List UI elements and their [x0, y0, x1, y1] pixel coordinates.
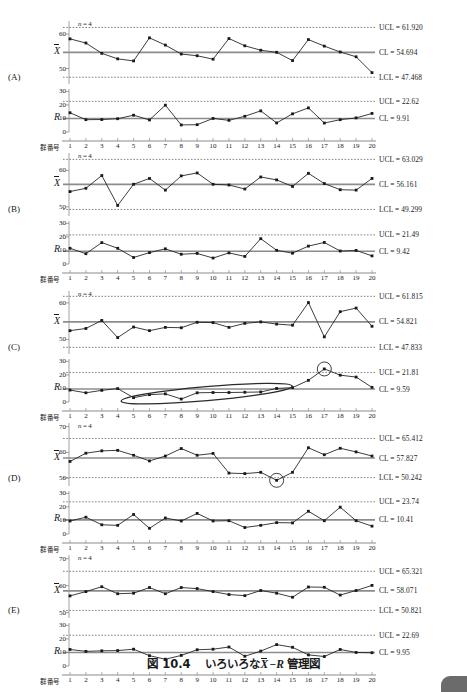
y-axis-tick-label: 0 [46, 260, 66, 268]
xbar-symbol: X [260, 658, 270, 670]
panel-letter: (A) [8, 72, 21, 82]
y-axis-tick-label: 10 [46, 246, 66, 254]
y-axis-tick-label: 30 [46, 219, 66, 227]
r-symbol: R [276, 658, 284, 670]
figure-caption: 図 10.4いろいろなX−R管理図 [0, 655, 467, 671]
control-limit-label: CL = 9.91 [379, 114, 410, 123]
x-axis-tick-label: 20 [363, 676, 381, 684]
y-axis-tick-label: 20 [46, 371, 66, 379]
panel-letter: (D) [8, 473, 21, 483]
y-axis-tick-label: 0 [46, 128, 66, 136]
x-axis-tick-label: 20 [363, 274, 381, 282]
control-limit-label: CL = 10.41 [379, 515, 414, 524]
control-limit-label: UCL = 23.74 [379, 497, 419, 506]
y-axis-tick-label: 20 [46, 503, 66, 511]
y-axis-tick-label: 30 [46, 489, 66, 497]
panel-letter: (B) [8, 204, 20, 214]
x-axis-tick-label: 20 [363, 544, 381, 552]
y-axis-tick-label: 10 [46, 114, 66, 122]
y-axis-tick-label: 20 [46, 233, 66, 241]
y-axis-tick-label: 10 [46, 516, 66, 524]
y-axis-tick-label: 20 [46, 101, 66, 109]
x-axis-tick-label: 20 [363, 142, 381, 150]
control-limit-label: CL = 9.59 [379, 385, 410, 394]
panel-letter: (E) [8, 605, 20, 615]
x-axis-tick-label: 20 [363, 412, 381, 420]
control-limit-label: UCL = 21.81 [379, 368, 419, 377]
y-axis-tick-label: 0 [46, 398, 66, 406]
control-chart-panel: X506070n = 4UCL = 65.412CL = 57.827LCL =… [0, 420, 467, 558]
caption-text-suffix: 管理図 [287, 657, 320, 671]
page-corner-mark [441, 676, 467, 692]
group-number-label: 群番号 [40, 676, 60, 686]
control-limit-label: UCL = 21.49 [379, 230, 419, 239]
y-axis-tick-label: 30 [46, 87, 66, 95]
y-axis-tick-label: 0 [46, 530, 66, 538]
group-number-label: 群番号 [40, 274, 60, 284]
control-chart-panel: X5060n = 4UCL = 63.029CL = 56.161LCL = 4… [0, 150, 467, 288]
caption-text: いろいろな [205, 657, 260, 671]
figure-number: 図 10.4 [147, 657, 190, 671]
y-axis-tick-label: 30 [46, 357, 66, 365]
y-axis-tick-label: 30 [46, 621, 66, 629]
panel-letter: (C) [8, 342, 20, 352]
y-axis-tick-label: 10 [46, 384, 66, 392]
control-chart-panel: X5060n = 4UCL = 61.920CL = 54.694LCL = 4… [0, 18, 467, 156]
control-limit-label: UCL = 22.62 [379, 97, 419, 106]
figure-10-4: X5060n = 4UCL = 61.920CL = 54.694LCL = 4… [0, 0, 467, 692]
control-limit-label: UCL = 22.69 [379, 631, 419, 640]
control-chart-panel: X5060n = 4UCL = 61.815CL = 54.821LCL = 4… [0, 288, 467, 426]
control-limit-label: CL = 9.42 [379, 247, 410, 256]
y-axis-tick-label: 20 [46, 635, 66, 643]
